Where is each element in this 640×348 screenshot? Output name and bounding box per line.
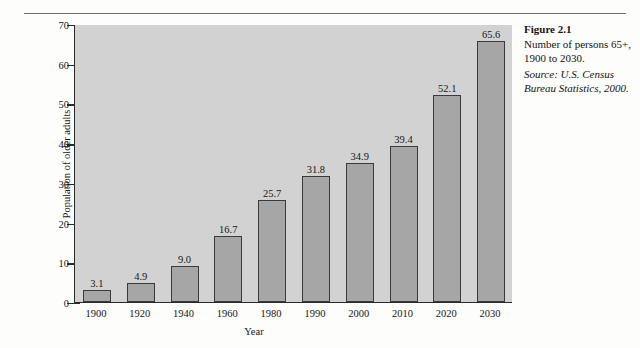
- y-axis-tick-label: 70: [59, 20, 70, 31]
- bar-value-label: 16.7: [219, 224, 237, 235]
- bar: 31.8: [302, 176, 330, 302]
- x-axis-tick-label: 2010: [392, 308, 413, 320]
- bar: 16.7: [214, 236, 242, 302]
- bar: 39.4: [390, 146, 418, 302]
- bars-container: 3.14.99.016.725.731.834.939.452.165.6: [75, 25, 512, 302]
- y-axis-tick-label: 40: [59, 139, 70, 150]
- bar-value-label: 3.1: [90, 278, 103, 289]
- bar: 52.1: [433, 95, 461, 302]
- x-axis-tick-label: 1940: [173, 308, 194, 320]
- bar-value-label: 31.8: [307, 164, 325, 175]
- plot-area: 3.14.99.016.725.731.834.939.452.165.6: [74, 25, 512, 303]
- bar: 65.6: [477, 41, 505, 302]
- x-axis-tick-label: 1960: [217, 308, 238, 320]
- bar: 9.0: [171, 266, 199, 302]
- bar-value-label: 4.9: [134, 271, 147, 282]
- figure-container: Population of older adults (in millions)…: [0, 0, 640, 348]
- bar-value-label: 39.4: [394, 134, 412, 145]
- x-axis-tick-label: 1900: [85, 308, 106, 320]
- bar-value-label: 34.9: [351, 151, 369, 162]
- y-axis-tick-label: 50: [59, 99, 70, 110]
- bar: 4.9: [127, 283, 155, 302]
- bar-value-label: 52.1: [438, 83, 456, 94]
- bar: 3.1: [83, 290, 111, 302]
- y-axis-tick-label: 20: [59, 218, 70, 229]
- y-axis-tick-label: 10: [59, 258, 70, 269]
- x-axis-tick-label: 2020: [436, 308, 457, 320]
- bar-value-label: 65.6: [482, 29, 500, 40]
- bar: 34.9: [346, 163, 374, 302]
- x-axis-tick-label: 2030: [480, 308, 501, 320]
- figure-caption: Figure 2.1 Number of persons 65+, 1900 t…: [524, 22, 632, 96]
- y-axis-tick-label: 60: [59, 59, 70, 70]
- figure-caption-title: Figure 2.1: [524, 22, 632, 37]
- bar-value-label: 25.7: [263, 188, 281, 199]
- x-axis-tick-label: 1920: [129, 308, 150, 320]
- bar: 25.7: [258, 200, 286, 302]
- y-axis-title-line1: Population of older adults: [61, 110, 72, 219]
- bar-value-label: 9.0: [178, 254, 191, 265]
- x-axis-tick-label: 2000: [348, 308, 369, 320]
- x-axis-tick-label: 1990: [304, 308, 325, 320]
- figure-caption-source: Source: U.S. Census Bureau Statistics, 2…: [524, 67, 632, 96]
- x-axis-tick-label: 1980: [261, 308, 282, 320]
- x-axis-labels: 1900192019401960198019902000201020202030: [74, 308, 512, 322]
- figure-caption-body: Number of persons 65+, 1900 to 2030.: [524, 37, 632, 66]
- x-axis-title: Year: [74, 326, 434, 338]
- y-axis-tick-label: 30: [59, 178, 70, 189]
- y-axis-tick-label: 0: [64, 298, 69, 309]
- bar-chart: Population of older adults (in millions)…: [0, 0, 515, 348]
